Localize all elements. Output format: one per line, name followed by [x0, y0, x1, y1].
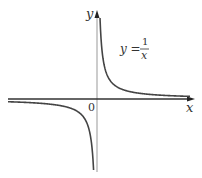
y-axis-arrow-icon: [95, 10, 100, 18]
equation-numerator: 1: [142, 36, 148, 47]
origin-label: 0: [88, 101, 95, 114]
equation-lhs: y =: [119, 42, 141, 56]
hyperbola-graph: y x 0 y = 1 x: [0, 0, 202, 178]
x-axis-label: x: [186, 100, 194, 115]
y-axis-label: y: [85, 6, 94, 21]
curve-left-branch: [8, 102, 95, 178]
equation-denominator: x: [141, 49, 148, 62]
